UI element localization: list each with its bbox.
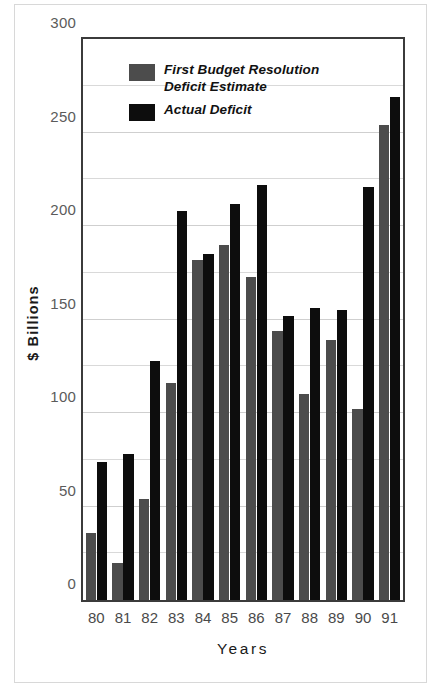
legend-label-actual: Actual Deficit xyxy=(164,102,252,119)
bar-estimate xyxy=(246,277,257,601)
x-axis-tick: 86 xyxy=(248,609,265,626)
y-axis-label: $ Billions xyxy=(25,285,41,360)
bar-estimate xyxy=(192,260,203,600)
x-axis-tick: 81 xyxy=(115,609,132,626)
legend-item-actual: Actual Deficit xyxy=(129,102,369,121)
x-axis-tick: 89 xyxy=(328,609,345,626)
bar-actual xyxy=(177,211,188,600)
y-axis-tick: 50 xyxy=(59,481,76,498)
legend-item-estimate: First Budget Resolution Deficit Estimate xyxy=(129,62,369,96)
legend-label-actual-line1: Actual Deficit xyxy=(164,102,252,117)
x-axis-tick: 88 xyxy=(301,609,318,626)
bar-actual xyxy=(363,187,374,600)
bar-estimate xyxy=(272,331,283,600)
y-axis-tick: 100 xyxy=(50,388,76,405)
bar-estimate xyxy=(166,383,177,600)
bar-actual xyxy=(390,97,401,600)
x-axis-tick: 83 xyxy=(168,609,185,626)
x-axis-tick: 82 xyxy=(141,609,158,626)
bar-actual xyxy=(97,462,108,600)
bar-estimate xyxy=(86,533,97,600)
chart-legend: First Budget Resolution Deficit Estimate… xyxy=(129,62,369,127)
y-axis-tick: 150 xyxy=(50,294,76,311)
y-axis-tick: 300 xyxy=(50,14,76,31)
legend-label-estimate-line2: Deficit Estimate xyxy=(164,79,267,94)
bar-actual xyxy=(257,185,268,600)
legend-label-estimate: First Budget Resolution Deficit Estimate xyxy=(164,62,319,96)
x-axis-tick: 90 xyxy=(355,609,372,626)
bar-actual xyxy=(230,204,241,600)
bar-actual xyxy=(150,361,161,600)
legend-swatch-actual xyxy=(129,104,155,121)
bar-estimate xyxy=(112,563,123,600)
bar-actual xyxy=(337,310,348,600)
bar-group: 91 xyxy=(376,39,403,600)
x-axis-tick: 84 xyxy=(195,609,212,626)
bar-actual xyxy=(203,254,214,600)
x-axis-tick: 85 xyxy=(221,609,238,626)
bar-estimate xyxy=(139,499,150,600)
legend-label-estimate-line1: First Budget Resolution xyxy=(164,62,319,77)
chart-figure: $ Billions 05010015020025030080818283848… xyxy=(14,4,427,683)
bar-estimate xyxy=(299,394,310,600)
bar-actual xyxy=(123,454,134,600)
x-axis-label: Years xyxy=(81,640,405,658)
y-axis-tick: 250 xyxy=(50,107,76,124)
bar-estimate xyxy=(219,245,230,600)
y-axis-tick: 0 xyxy=(67,575,76,592)
bar-estimate xyxy=(379,125,390,600)
bar-group: 80 xyxy=(83,39,110,600)
bar-actual xyxy=(283,316,294,600)
bar-estimate xyxy=(352,409,363,600)
bar-estimate xyxy=(326,340,337,600)
x-axis-tick: 87 xyxy=(275,609,292,626)
y-axis-tick: 200 xyxy=(50,201,76,218)
legend-swatch-estimate xyxy=(129,64,155,81)
bar-actual xyxy=(310,308,321,600)
x-axis-tick: 91 xyxy=(381,609,398,626)
x-axis-tick: 80 xyxy=(88,609,105,626)
